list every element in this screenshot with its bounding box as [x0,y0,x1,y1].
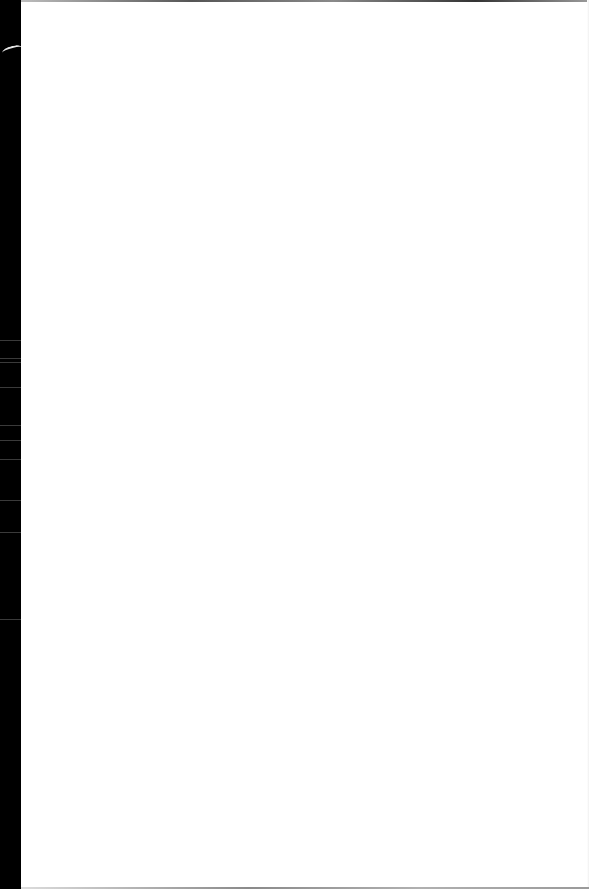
scan-border-left [0,0,21,889]
scanned-page [0,0,589,889]
scan-artifact [1,44,22,56]
blank-page-content [21,2,587,887]
